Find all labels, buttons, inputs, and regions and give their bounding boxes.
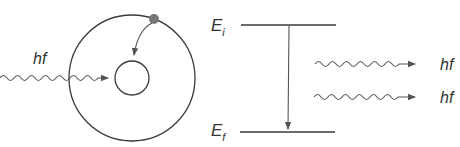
final-energy-label: Ef xyxy=(211,121,226,143)
transition-arrow xyxy=(288,26,289,129)
emitted-photon-wave-1 xyxy=(315,62,415,67)
emitted-photon-label-1: hf xyxy=(440,56,455,73)
inner-orbit xyxy=(115,61,149,95)
incoming-photon-wave xyxy=(0,76,108,81)
incoming-photon-label: hf xyxy=(33,50,48,67)
emitted-photons: hf hf xyxy=(314,56,455,106)
energy-level-diagram: Ei Ef xyxy=(211,16,336,143)
outer-orbit xyxy=(69,15,195,141)
initial-energy-label: Ei xyxy=(211,16,225,38)
emitted-photon-label-2: hf xyxy=(440,89,455,106)
electron-transition-arrow xyxy=(134,23,152,55)
atom: hf xyxy=(0,14,195,141)
emitted-photon-wave-2 xyxy=(314,95,415,100)
stimulated-emission-diagram: hf Ei Ef hf hf xyxy=(0,0,460,147)
electron xyxy=(149,14,159,24)
